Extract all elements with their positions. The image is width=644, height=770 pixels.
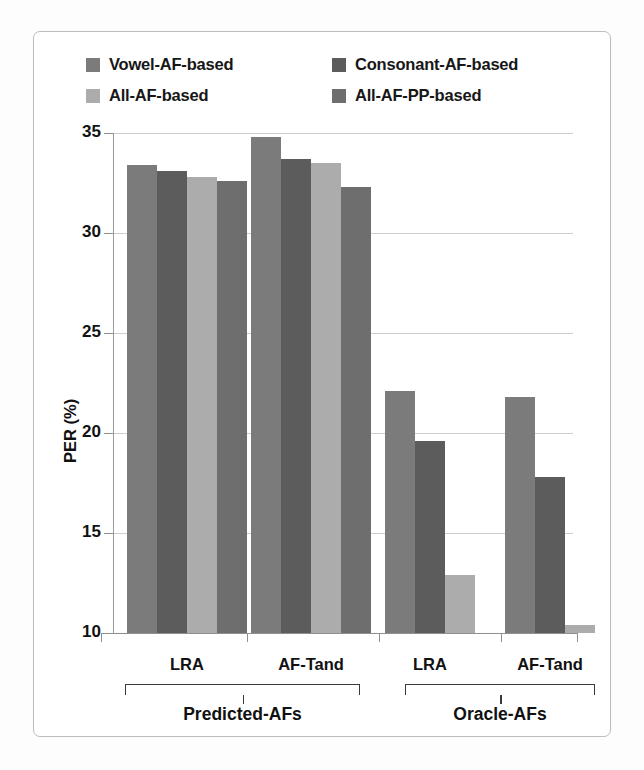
y-tick-label: 15 — [55, 522, 101, 542]
group-label: Predicted-AFs — [123, 704, 363, 725]
x-tick-mark — [379, 633, 380, 642]
x-axis-category-label: LRA — [127, 655, 247, 674]
group-bracket-stem — [243, 695, 245, 704]
x-axis-category-label: AF-Tand — [490, 655, 610, 674]
legend-swatch-icon — [86, 89, 100, 103]
bar — [565, 625, 595, 633]
legend-swatch-icon — [332, 58, 346, 72]
plot-area: 101520253035 PER (%) — [113, 133, 573, 633]
bar — [217, 181, 247, 633]
chart-legend: Vowel-AF-based Consonant-AF-based All-AF… — [86, 49, 556, 111]
bar — [505, 397, 535, 633]
y-tick-mark — [104, 633, 113, 634]
bar — [127, 165, 157, 633]
x-tick-mark — [247, 633, 248, 642]
y-axis-line — [113, 133, 114, 634]
y-axis-title: PER (%) — [61, 399, 80, 463]
bar — [535, 477, 565, 633]
bar — [281, 159, 311, 633]
y-tick-mark — [104, 433, 113, 434]
bar — [445, 575, 475, 633]
legend-item-label: All-AF-based — [109, 86, 208, 105]
x-tick-mark — [101, 633, 102, 642]
bar — [311, 163, 341, 633]
group-label: Oracle-AFs — [380, 704, 620, 725]
bar — [385, 391, 415, 633]
legend-item-label: All-AF-PP-based — [355, 86, 481, 105]
legend-row-2: All-AF-based All-AF-PP-based — [86, 80, 556, 111]
legend-swatch-icon — [332, 89, 346, 103]
y-tick-mark — [104, 533, 113, 534]
legend-item-vowel-af-based[interactable]: Vowel-AF-based — [86, 49, 332, 80]
legend-item-all-af-pp-based[interactable]: All-AF-PP-based — [332, 80, 556, 111]
group-bracket — [125, 684, 360, 695]
y-tick-label: 30 — [55, 222, 101, 242]
bar — [415, 441, 445, 633]
group-bracket-stem — [500, 695, 502, 704]
legend-item-label: Consonant-AF-based — [355, 55, 518, 74]
x-axis-line — [101, 633, 578, 634]
legend-item-consonant-af-based[interactable]: Consonant-AF-based — [332, 49, 556, 80]
y-tick-label: 10 — [55, 622, 101, 642]
x-tick-mark — [501, 633, 502, 642]
bar — [157, 171, 187, 633]
bar — [251, 137, 281, 633]
y-tick-mark — [104, 233, 113, 234]
legend-item-label: Vowel-AF-based — [109, 55, 233, 74]
x-axis-category-label: AF-Tand — [251, 655, 371, 674]
chart-figure: Vowel-AF-based Consonant-AF-based All-AF… — [0, 0, 644, 770]
legend-swatch-icon — [86, 58, 100, 72]
y-tick-label: 25 — [55, 322, 101, 342]
x-tick-mark — [577, 633, 578, 642]
y-tick-mark — [104, 333, 113, 334]
x-axis-category-label: LRA — [370, 655, 490, 674]
legend-item-all-af-based[interactable]: All-AF-based — [86, 80, 332, 111]
legend-row-1: Vowel-AF-based Consonant-AF-based — [86, 49, 556, 80]
gridline — [113, 133, 573, 134]
y-tick-mark — [104, 133, 113, 134]
bar — [187, 177, 217, 633]
bar — [341, 187, 371, 633]
y-tick-label: 35 — [55, 122, 101, 142]
group-bracket — [405, 684, 595, 695]
